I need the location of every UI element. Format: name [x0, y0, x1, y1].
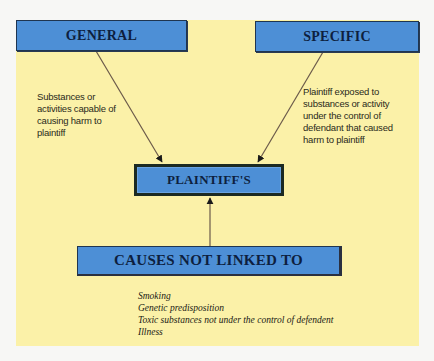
causes-item: Illness: [138, 326, 333, 338]
causes-list: Smoking Genetic predisposition Toxic sub…: [138, 290, 333, 338]
plaintiff-box: PLAINTIFF'S: [134, 164, 284, 196]
plaintiff-label: PLAINTIFF'S: [167, 172, 251, 188]
causes-box: CAUSES NOT LINKED TO: [77, 246, 342, 276]
specific-box: SPECIFIC: [255, 21, 419, 52]
specific-label: SPECIFIC: [303, 29, 371, 45]
general-label: GENERAL: [66, 28, 137, 44]
causes-item: Smoking: [138, 290, 333, 302]
causes-item: Toxic substances not under the control o…: [138, 314, 333, 326]
specific-description: Plaintiff exposed to substances or activ…: [303, 86, 413, 146]
causes-item: Genetic predisposition: [138, 302, 333, 314]
causes-label: CAUSES NOT LINKED TO: [114, 252, 303, 269]
general-description: Substances or activities capable of caus…: [37, 91, 127, 139]
general-box: GENERAL: [16, 20, 187, 51]
